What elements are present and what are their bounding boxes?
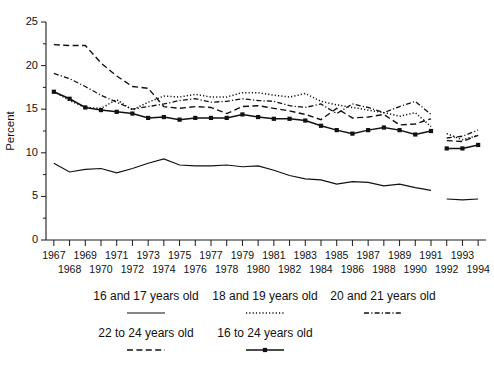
series-marker — [225, 116, 229, 120]
series-marker — [83, 105, 87, 109]
chart-legend: 16 and 17 years old18 and 19 years old20… — [93, 289, 435, 352]
series-marker — [193, 116, 197, 120]
x-tick-label: 1976 — [184, 263, 208, 275]
series-line — [54, 159, 431, 190]
legend-item-label: 22 to 24 years old — [98, 326, 193, 340]
series-marker — [256, 115, 260, 119]
series-marker — [366, 128, 370, 132]
x-tick-label: 1990 — [404, 263, 428, 275]
legend-item-label: 20 and 21 years old — [330, 289, 435, 303]
legend-item-label: 18 and 19 years old — [212, 289, 317, 303]
x-tick-label: 1992 — [435, 263, 459, 275]
series-marker — [240, 112, 244, 116]
x-tick-label: 1978 — [215, 263, 239, 275]
x-tick-label: 1969 — [74, 249, 98, 261]
y-axis-ticks — [41, 22, 46, 240]
x-tick-label: 1993 — [451, 249, 475, 261]
x-tick-label: 1985 — [325, 249, 349, 261]
series-marker — [115, 110, 119, 114]
series-line — [54, 73, 431, 114]
x-tick-label: 1981 — [262, 249, 286, 261]
x-tick-label: 1970 — [89, 263, 113, 275]
series-line — [447, 130, 478, 138]
x-tick-label: 1987 — [356, 249, 380, 261]
y-axis-tick-labels: 0510152025 — [26, 15, 38, 245]
series-marker — [350, 132, 354, 136]
series-marker — [287, 117, 291, 121]
series-line — [447, 199, 478, 200]
legend-item-label: 16 to 24 years old — [217, 326, 312, 340]
series-marker — [52, 90, 56, 94]
x-tick-label: 1983 — [294, 249, 318, 261]
x-tick-label: 1974 — [152, 263, 176, 275]
x-tick-label: 1975 — [168, 249, 192, 261]
series-marker — [382, 125, 386, 129]
series-marker — [209, 116, 213, 120]
legend-item-label: 16 and 17 years old — [93, 289, 198, 303]
x-tick-label: 1979 — [231, 249, 255, 261]
series-marker — [335, 128, 339, 132]
series-marker — [476, 143, 480, 147]
y-tick-label: 10 — [26, 146, 38, 158]
series-marker — [99, 108, 103, 112]
x-tick-label: 1980 — [246, 263, 270, 275]
x-tick-label: 1988 — [372, 263, 396, 275]
line-chart: 0510152025 Percent 196719681969197019711… — [0, 0, 494, 370]
y-axis-title: Percent — [4, 110, 16, 150]
plot-series-group — [52, 45, 480, 200]
x-tick-label: 1967 — [42, 249, 66, 261]
x-tick-label: 1968 — [58, 263, 82, 275]
y-tick-label: 0 — [32, 233, 38, 245]
series-marker — [177, 118, 181, 122]
series-line — [54, 92, 431, 127]
series-marker — [303, 118, 307, 122]
x-tick-label: 1991 — [419, 249, 443, 261]
y-tick-label: 5 — [32, 189, 38, 201]
series-marker — [429, 129, 433, 133]
series-marker — [413, 132, 417, 136]
x-axis-ticks — [54, 240, 478, 246]
chart-container: 0510152025 Percent 196719681969197019711… — [0, 0, 494, 370]
series-marker — [319, 124, 323, 128]
x-axis-group: 1967196819691970197119721973197419751976… — [42, 240, 490, 275]
x-tick-label: 1994 — [466, 263, 490, 275]
series-marker — [445, 146, 449, 150]
x-axis-tick-labels: 1967196819691970197119721973197419751976… — [42, 249, 490, 275]
x-tick-label: 1973 — [136, 249, 160, 261]
y-axis-group: 0510152025 Percent — [4, 15, 46, 245]
x-tick-label: 1971 — [105, 249, 129, 261]
series-marker — [130, 111, 134, 115]
x-tick-label: 1972 — [121, 263, 145, 275]
series-line — [447, 134, 478, 140]
series-marker — [272, 117, 276, 121]
y-tick-label: 20 — [26, 59, 38, 71]
x-tick-label: 1984 — [309, 263, 333, 275]
x-tick-label: 1982 — [278, 263, 302, 275]
x-tick-label: 1986 — [341, 263, 365, 275]
series-marker — [162, 115, 166, 119]
legend-item-marker — [263, 348, 267, 352]
series-marker — [397, 128, 401, 132]
series-marker — [460, 146, 464, 150]
x-tick-label: 1977 — [199, 249, 223, 261]
series-marker — [146, 116, 150, 120]
series-line — [447, 135, 478, 141]
series-marker — [67, 97, 71, 101]
y-tick-label: 25 — [26, 15, 38, 27]
x-tick-label: 1989 — [388, 249, 412, 261]
y-tick-label: 15 — [26, 102, 38, 114]
